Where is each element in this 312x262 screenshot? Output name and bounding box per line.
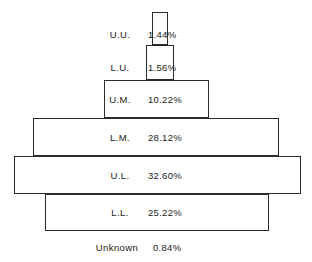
row-label-uu: U.U. xyxy=(97,28,143,41)
bar-ll xyxy=(45,194,269,231)
row-label-unknown: Unknown xyxy=(86,241,148,254)
bar-um xyxy=(104,80,209,118)
bar-lm xyxy=(33,118,279,156)
row-label-lu: L.U. xyxy=(97,61,143,74)
bar-lu xyxy=(146,45,174,80)
bar-uu xyxy=(152,12,168,45)
bar-ul xyxy=(14,156,301,194)
social-class-pyramid-chart: U.U. 1.44% L.U. 1.56% U.M. 10.22% L.M. 2… xyxy=(0,0,312,262)
row-value-unknown: 0.84% xyxy=(153,241,205,254)
chart-row-unknown: Unknown 0.84% xyxy=(0,241,312,254)
